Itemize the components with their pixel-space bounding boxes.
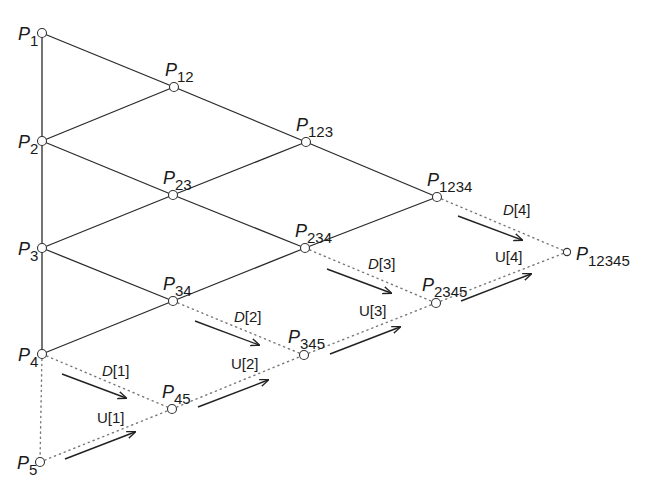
arrow-label-d3: D[3] xyxy=(368,255,396,272)
edge-P1-P12 xyxy=(42,33,174,87)
edge-P23-P123 xyxy=(173,142,306,195)
arrow-label-u1: U[1] xyxy=(97,409,125,426)
arrow-d3-icon xyxy=(327,269,391,293)
label-p234: P234 xyxy=(295,221,332,246)
label-p34: P34 xyxy=(163,274,192,299)
edge-P34-P234 xyxy=(173,248,305,301)
label-p345: P345 xyxy=(288,327,325,352)
label-p3: P3 xyxy=(18,239,38,264)
label-p5: P5 xyxy=(17,453,37,478)
diagram-canvas: P1P2P3P4P5P12P23P34P45P123P234P345P1234P… xyxy=(0,0,650,478)
arrow-u2-icon xyxy=(198,380,268,407)
arrow-label-u4: U[4] xyxy=(495,248,523,265)
neville-tableau-diagram: P1P2P3P4P5P12P23P34P45P123P234P345P1234P… xyxy=(0,0,650,478)
node-p3-icon xyxy=(38,244,47,253)
node-p2-icon xyxy=(38,137,47,146)
dotted-edge-P4-P5 xyxy=(40,354,42,462)
nodes xyxy=(36,29,571,467)
label-p23: P23 xyxy=(163,168,192,193)
arrow-u1-icon xyxy=(65,432,135,459)
arrow-label-d4: D[4] xyxy=(503,201,531,218)
dotted-edge-P1234-P12345 xyxy=(437,197,567,252)
label-p2: P2 xyxy=(18,132,38,157)
arrow-u4-icon xyxy=(461,274,531,301)
label-p4: P4 xyxy=(18,345,38,370)
node-p12345-icon xyxy=(563,248,570,255)
label-p123: P123 xyxy=(296,115,333,140)
edge-P23-P234 xyxy=(173,195,305,248)
arrow-label-u3: U[3] xyxy=(359,302,387,319)
edge-P123-P1234 xyxy=(306,142,437,197)
label-p12: P12 xyxy=(165,60,194,85)
edge-P12-P123 xyxy=(174,87,306,142)
arrow-label-u2: U[2] xyxy=(231,355,259,372)
label-p1: P1 xyxy=(18,24,38,49)
label-p1234: P1234 xyxy=(427,170,472,195)
edge-P2-P12 xyxy=(42,87,174,141)
label-p45: P45 xyxy=(162,382,191,407)
edge-P4-P34 xyxy=(42,301,173,354)
label-p2345: P2345 xyxy=(422,275,467,300)
arrow-u3-icon xyxy=(330,327,400,354)
arrow-label-d1: D[1] xyxy=(102,362,130,379)
edge-P3-P34 xyxy=(42,248,173,301)
arrow-label-d2: D[2] xyxy=(234,308,262,325)
node-p1-icon xyxy=(38,29,47,38)
node-p4-icon xyxy=(38,350,47,359)
edge-P2-P23 xyxy=(42,141,173,195)
edge-P3-P23 xyxy=(42,195,173,248)
label-p12345: P12345 xyxy=(576,244,630,269)
